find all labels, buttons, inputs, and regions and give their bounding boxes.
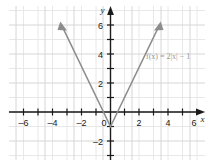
x-tick-label--2: –2 (76, 118, 86, 128)
x-tick-label--6: –6 (18, 118, 28, 128)
x-tick-label-0: 0 (101, 118, 106, 128)
y-tick-label-2: 2 (98, 79, 103, 89)
y-tick-label-4: 4 (98, 50, 103, 60)
x-tick-label-4: 4 (165, 118, 170, 128)
absolute-value-graph-figure: –6 –4 –2 0 2 4 6 –2 2 4 6 y x f(x) = 2|x… (0, 0, 211, 166)
x-tick-label-2: 2 (136, 118, 141, 128)
function-annotation-label: f(x) = 2|x| − 1 (146, 52, 190, 61)
coordinate-plane-svg: –6 –4 –2 0 2 4 6 –2 2 4 6 y x f(x) = 2|x… (0, 0, 211, 166)
y-tick-label-6: 6 (98, 21, 103, 31)
x-tick-label-6: 6 (191, 118, 196, 128)
y-axis-label: y (100, 5, 105, 15)
y-tick-label--2: –2 (93, 137, 103, 147)
x-axis-label: x (200, 114, 205, 124)
x-tick-label--4: –4 (47, 118, 57, 128)
